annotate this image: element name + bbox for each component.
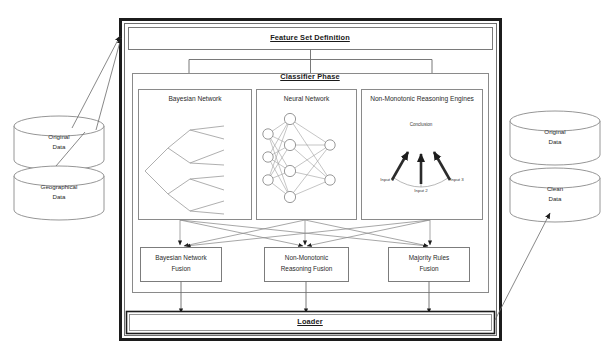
neural-network-title: Neural Network: [257, 95, 356, 103]
datastore-original-data-right-line1: Original: [510, 127, 600, 137]
majority-rules-fusion-line1: Majority Rules: [389, 253, 469, 263]
bayesian-network-fusion-line2: Fusion: [141, 264, 221, 274]
datastore-clean-data-line1: Clean: [510, 184, 600, 194]
nmr-input-3-label: Input 3: [440, 177, 474, 183]
bayesian-network-title: Bayesian Network: [139, 95, 251, 103]
diagram-vector-layer: [0, 0, 611, 353]
datastore-geographical-data-line2: Data: [14, 192, 104, 202]
classifier-phase-title: Classifier Phase: [260, 72, 360, 81]
nmr-conclusion-label: Conclusion: [396, 122, 446, 128]
loader-to-clean-data-arrow: [495, 213, 550, 320]
feature-set-definition-title: Feature Set Definition: [128, 33, 492, 42]
non-monotonic-reasoning-title: Non-Monotonic Reasoning Engines: [360, 95, 484, 103]
datastore-original-data-left-line2: Data: [14, 142, 104, 152]
majority-rules-fusion-line2: Fusion: [389, 264, 469, 274]
loader-title: Loader: [126, 317, 494, 326]
bayesian-network-fusion-line1: Bayesian Network: [141, 253, 221, 263]
bayesian-network-panel: [139, 90, 252, 220]
datastore-original-data-left-line1: Original: [14, 132, 104, 142]
non-monotonic-reasoning-fusion-line1: Non-Monotonic: [265, 253, 348, 263]
nmr-input-2-label: Input 2: [404, 188, 438, 194]
nmr-input-1-label: Input 1: [370, 177, 404, 183]
datastore-geographical-data-line1: Geographical: [14, 182, 104, 192]
non-monotonic-reasoning-fusion-line2: Reasoning Fusion: [265, 264, 348, 274]
datastore-original-data-right-line2: Data: [510, 137, 600, 147]
diagram-canvas: Feature Set Definition Classifier Phase …: [0, 0, 611, 353]
datastore-clean-data-line2: Data: [510, 194, 600, 204]
